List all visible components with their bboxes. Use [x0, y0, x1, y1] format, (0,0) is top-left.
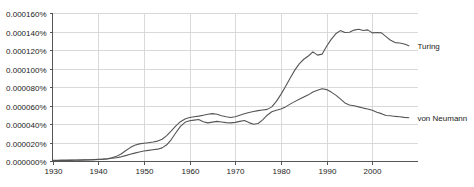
ngram-chart: 0.000000%0.000020%0.000040%0.000060%0.00…	[0, 0, 474, 187]
x-tick-label: 1980	[273, 167, 291, 176]
y-tick-label: 0.000100%	[6, 66, 46, 75]
x-tick-label: 1970	[227, 167, 245, 176]
x-tick-label: 2000	[364, 167, 382, 176]
y-tick-label: 0.000000%	[6, 158, 46, 167]
y-tick-label: 0.000060%	[6, 103, 46, 112]
x-tick-label: 1990	[319, 167, 337, 176]
x-tick-label: 1960	[182, 167, 200, 176]
y-tick-label: 0.000120%	[6, 47, 46, 56]
y-tick-label: 0.000160%	[6, 10, 46, 19]
series-label-von-neumann[interactable]: von Neumann	[417, 114, 467, 123]
series-labels-group: Turingvon Neumann	[417, 42, 467, 123]
y-tick-label: 0.000140%	[6, 29, 46, 38]
chart-plot-area: 0.000000%0.000020%0.000040%0.000060%0.00…	[0, 0, 474, 187]
x-axis-tick-labels: 19301940195019601970198019902000	[45, 167, 382, 176]
data-series-group	[53, 29, 409, 160]
x-tick-label: 1950	[136, 167, 154, 176]
y-tick-label: 0.000020%	[6, 140, 46, 149]
x-tick-label: 1930	[45, 167, 63, 176]
y-tick-label: 0.000080%	[6, 84, 46, 93]
y-tick-label: 0.000040%	[6, 121, 46, 130]
y-axis-tick-labels: 0.000000%0.000020%0.000040%0.000060%0.00…	[6, 10, 46, 167]
series-label-turing[interactable]: Turing	[417, 42, 439, 51]
series-line-turing[interactable]	[53, 29, 409, 160]
x-tick-label: 1940	[90, 167, 108, 176]
